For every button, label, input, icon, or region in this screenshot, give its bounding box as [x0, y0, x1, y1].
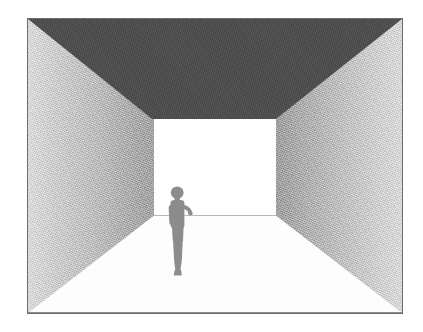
room-interior	[28, 19, 402, 313]
person-silhouette	[164, 185, 198, 277]
frame-bottom-edge	[28, 312, 402, 313]
person-silhouette-icon	[164, 185, 198, 277]
illustration-canvas: A grayscale illustration of an empty rec…	[0, 0, 423, 332]
perspective-room-illustration	[27, 18, 403, 314]
